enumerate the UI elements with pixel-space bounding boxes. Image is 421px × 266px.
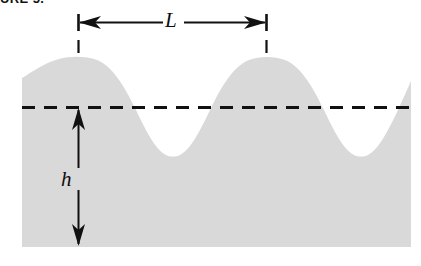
material-shaded-region xyxy=(22,57,411,247)
length-label-L: L xyxy=(165,10,177,31)
figure-container: URE 5. xyxy=(0,0,421,266)
height-label-h: h xyxy=(61,169,72,190)
diagram-canvas xyxy=(0,0,421,266)
